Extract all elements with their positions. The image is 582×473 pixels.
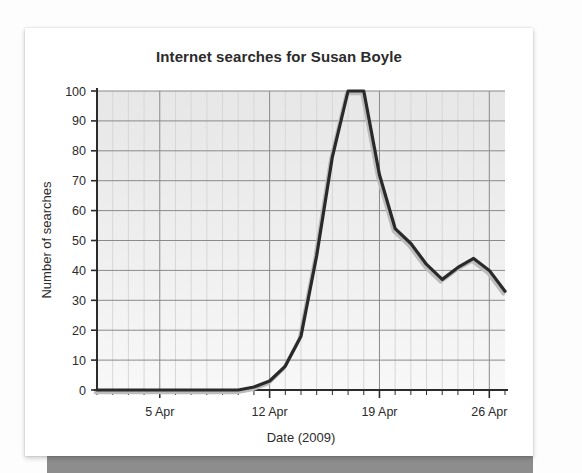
y-tick-label: 60 xyxy=(72,204,86,218)
page-background: Internet searches for Susan Boyle 010203… xyxy=(0,0,582,473)
y-tick-label: 80 xyxy=(72,144,86,158)
y-tick-label: 90 xyxy=(72,114,86,128)
chart-canvas: 0102030405060708090100 5 Apr12 Apr19 Apr… xyxy=(25,28,533,456)
y-tick-label: 20 xyxy=(72,324,86,338)
figure-card: Internet searches for Susan Boyle 010203… xyxy=(25,28,533,456)
y-tick-label: 70 xyxy=(72,174,86,188)
y-axis-title: Number of searches xyxy=(39,181,54,299)
y-tick-label: 30 xyxy=(72,294,86,308)
x-tick-label: 19 Apr xyxy=(361,405,397,419)
x-tick-label: 12 Apr xyxy=(252,405,288,419)
x-tick-label: 26 Apr xyxy=(471,405,507,419)
y-tick-label: 50 xyxy=(72,234,86,248)
page-bottom-band xyxy=(47,455,533,473)
y-axis-ticks: 0102030405060708090100 xyxy=(65,85,97,398)
y-tick-label: 10 xyxy=(72,354,86,368)
y-tick-label: 100 xyxy=(65,85,86,99)
x-axis-title: Date (2009) xyxy=(267,430,336,445)
y-tick-label: 0 xyxy=(79,384,86,398)
x-tick-label: 5 Apr xyxy=(145,405,174,419)
y-tick-label: 40 xyxy=(72,264,86,278)
